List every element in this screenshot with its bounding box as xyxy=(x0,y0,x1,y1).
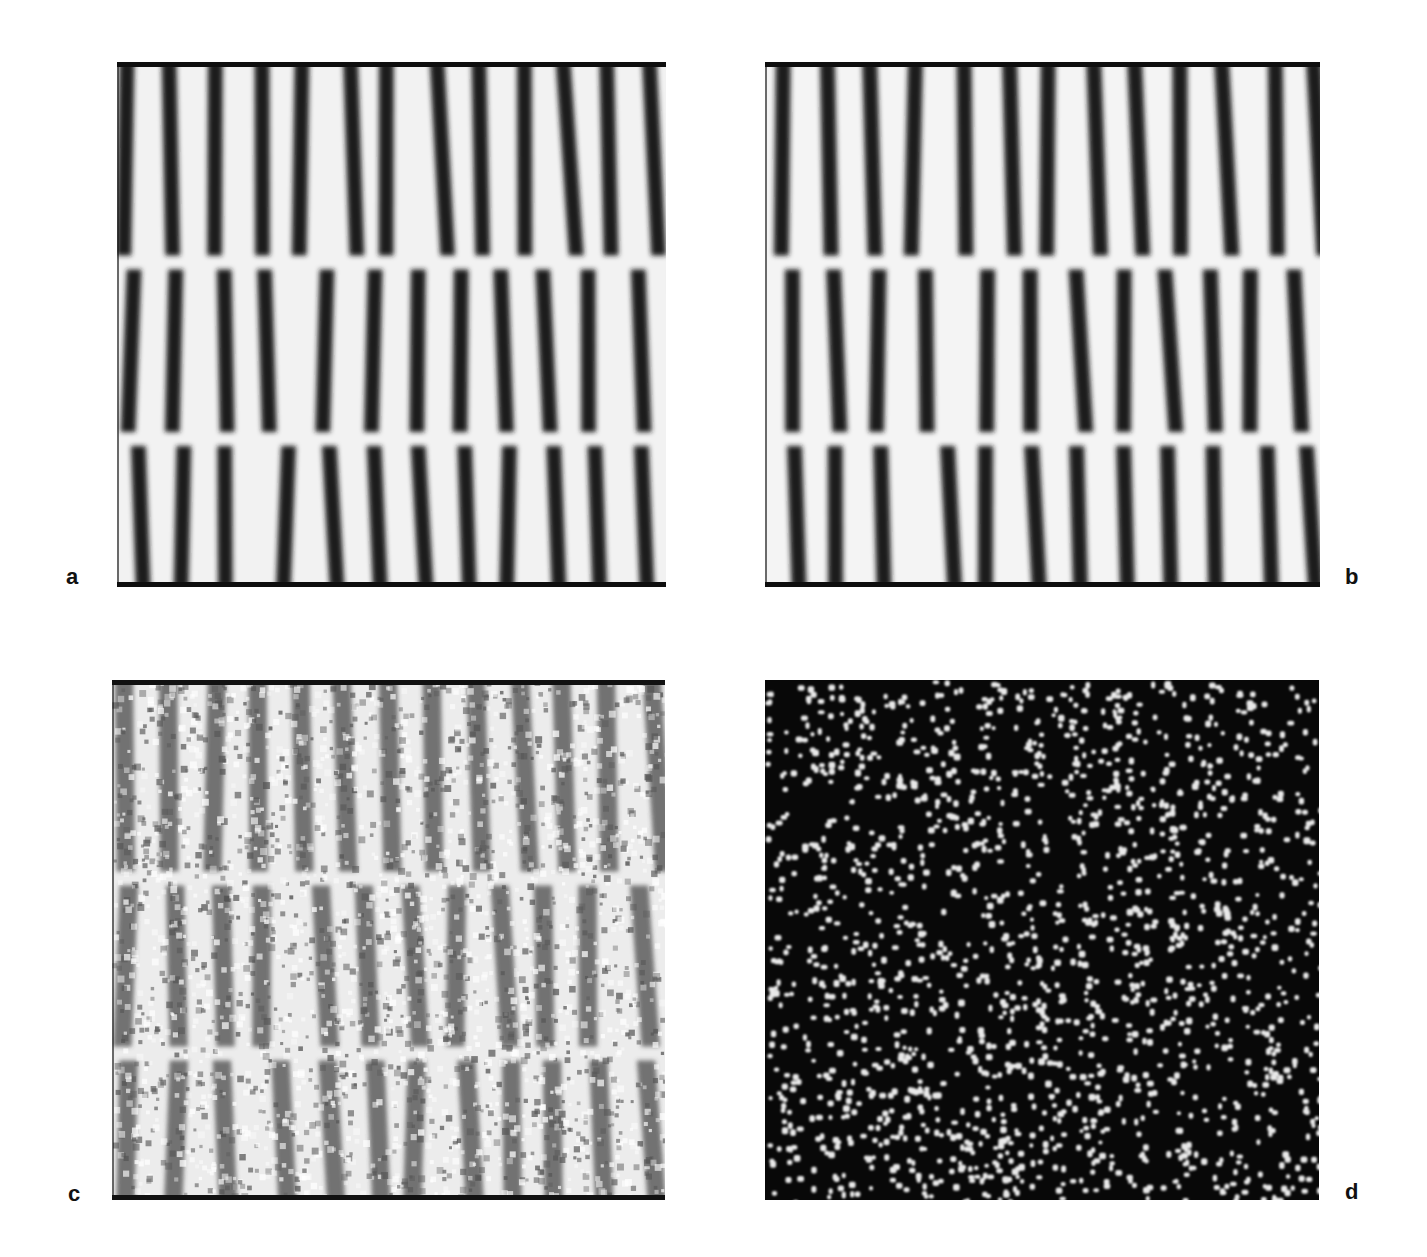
panel-a-image xyxy=(117,62,666,587)
panel-label-d: d xyxy=(1345,1181,1358,1203)
panel-b-stripe-pattern xyxy=(765,62,1320,587)
panel-label-a: a xyxy=(66,566,78,588)
panel-c-noisy-pattern xyxy=(112,680,665,1200)
panel-label-c: c xyxy=(68,1183,80,1205)
panel-d-image xyxy=(765,680,1319,1200)
panel-d-random-dots xyxy=(765,680,1319,1200)
panel-a-stripe-pattern xyxy=(117,62,666,587)
panel-label-b: b xyxy=(1345,566,1358,588)
panel-c-image xyxy=(112,680,665,1200)
panel-b-image xyxy=(765,62,1320,587)
